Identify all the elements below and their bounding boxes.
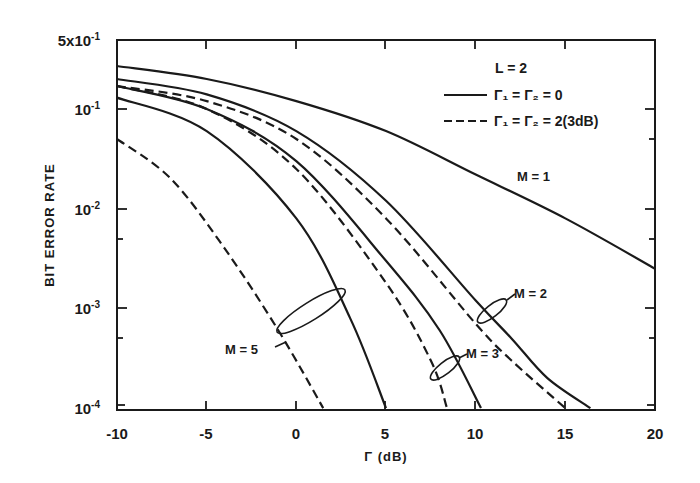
legend-title: L = 2 [495, 60, 527, 76]
curve-m-3-1-2-0 [117, 86, 481, 408]
x-tick-labels: -10 -5 0 5 10 15 20 [106, 425, 663, 442]
m3-ellipse [427, 352, 463, 384]
m2-ellipse [474, 295, 510, 327]
ytick-label-1e-2: 10-2 [74, 200, 100, 218]
curve-m-3-1-2-2-3db- [117, 86, 447, 408]
label-m2: M = 2 [514, 286, 547, 301]
label-m1: M = 1 [517, 169, 550, 184]
xtick-label: 10 [467, 425, 484, 442]
label-m5: M = 5 [225, 342, 258, 357]
legend-dashed-label: Γ₁ = Γ₂ = 2(3dB) [494, 113, 598, 129]
legend: L = 2 Γ₁ = Γ₂ = 0 Γ₁ = Γ₂ = 2(3dB) [444, 60, 598, 129]
xtick-label: 0 [292, 425, 300, 442]
ytick-label-1e-4: 10-4 [74, 399, 100, 417]
xtick-label: 5 [381, 425, 389, 442]
grouping-ellipses [272, 282, 515, 384]
x-axis-title: Γ (dB) [364, 449, 407, 464]
ytick-label-1e-3: 10-3 [74, 299, 100, 317]
xtick-label: 15 [557, 425, 574, 442]
ytick-label-1e-1: 10-1 [74, 100, 100, 118]
xtick-label: -10 [106, 425, 128, 442]
curve-m-5-1-2-0 [117, 98, 386, 409]
curve-m-1-1-2-0 [117, 66, 655, 269]
ber-chart: 5x10-1 10-1 10-2 10-3 10-4 -10 -5 0 5 10… [0, 0, 700, 483]
plot-frame [117, 40, 655, 410]
legend-solid-label: Γ₁ = Γ₂ = 0 [494, 87, 563, 103]
xtick-label: 20 [647, 425, 664, 442]
curve-m-5-1-2-2-3db- [117, 139, 323, 408]
label-m3: M = 3 [466, 346, 499, 361]
ytick-label-5e-1: 5x10-1 [58, 31, 101, 49]
y-ticks [117, 109, 655, 405]
xtick-label: -5 [199, 425, 212, 442]
y-axis-title: BIT ERROR RATE [42, 163, 57, 287]
